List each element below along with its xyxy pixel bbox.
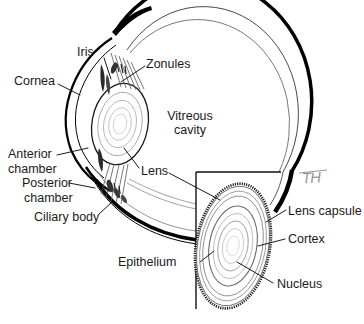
label-cornea: Cornea xyxy=(14,74,55,88)
eye-anatomy-diagram: TH Iris Zonules Cornea Vitreous xyxy=(0,0,364,324)
label-iris: Iris xyxy=(77,45,94,59)
label-cortex: Cortex xyxy=(288,232,326,246)
label-anterior-chamber: chamber xyxy=(8,162,57,176)
label-epithelium: Epithelium xyxy=(118,255,176,269)
retina-choroid-line xyxy=(127,7,298,172)
label-vitreous-cavity: cavity xyxy=(174,123,207,137)
label-lens-capsule: Lens capsule xyxy=(288,204,362,218)
label-ciliary-body: Ciliary body xyxy=(34,210,100,224)
eye-anatomy-figure: TH Iris Zonules Cornea Vitreous xyxy=(0,0,364,324)
retina-choroid-line xyxy=(129,179,196,204)
retina-choroid-line xyxy=(127,183,196,209)
label-posterior-chamber: chamber xyxy=(24,191,73,205)
label-zonules: Zonules xyxy=(146,57,190,71)
label-vitreous-cavity: Vitreous xyxy=(167,109,213,123)
leader-line-ciliary-body xyxy=(99,203,111,214)
label-lens: Lens xyxy=(141,164,168,178)
label-nucleus: Nucleus xyxy=(277,277,322,291)
retina-choroid-line xyxy=(130,20,290,172)
sclera-outline xyxy=(115,0,312,171)
leader-line-posterior-chamber xyxy=(69,183,95,188)
iris-section xyxy=(100,64,104,92)
label-posterior-chamber: Posterior xyxy=(22,176,72,190)
leader-line-zonules xyxy=(121,66,145,82)
label-anterior-chamber: Anterior xyxy=(8,147,52,161)
lens xyxy=(85,79,154,169)
